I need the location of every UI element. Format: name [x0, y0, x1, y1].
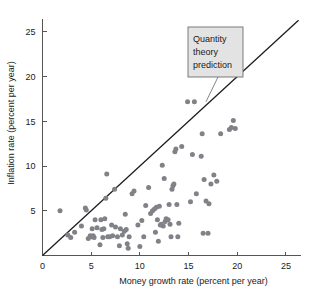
data-point — [160, 163, 165, 168]
data-point — [132, 189, 137, 194]
data-point — [194, 191, 199, 196]
data-point — [139, 218, 144, 223]
data-point — [200, 131, 205, 136]
data-point — [115, 234, 120, 239]
data-point — [100, 235, 105, 240]
data-point — [113, 224, 118, 229]
data-point — [135, 223, 140, 228]
data-point — [124, 227, 129, 232]
data-point — [214, 179, 219, 184]
data-point — [167, 202, 172, 207]
data-point — [231, 118, 236, 123]
data-point — [102, 216, 107, 221]
data-point — [185, 99, 190, 104]
data-point — [58, 208, 63, 213]
data-points — [58, 99, 238, 251]
data-point — [188, 199, 193, 204]
data-point — [166, 217, 171, 222]
data-point — [161, 223, 166, 228]
x-tick-label-25: 25 — [281, 261, 291, 271]
data-point — [84, 207, 89, 212]
x-tick-label-15: 15 — [184, 261, 194, 271]
data-point — [143, 203, 148, 208]
y-tick-label-10: 10 — [25, 161, 35, 171]
quantity-theory-annotation: Quantitytheoryprediction — [188, 27, 243, 102]
data-point — [206, 231, 211, 236]
axis-titles: Money growth rate (percent per year)Infl… — [6, 61, 268, 285]
data-point — [206, 201, 211, 206]
data-point — [97, 242, 102, 247]
data-point — [179, 144, 184, 149]
data-point — [90, 226, 95, 231]
data-point — [110, 233, 115, 238]
data-point — [79, 223, 84, 228]
data-point — [92, 235, 97, 240]
data-point — [155, 217, 160, 222]
data-point — [156, 239, 161, 244]
annotation-line-3: prediction — [193, 60, 232, 70]
y-axis-title: Inflation rate (percent per year) — [6, 61, 16, 185]
data-point — [162, 176, 167, 181]
data-point — [176, 221, 181, 226]
data-point — [146, 185, 151, 190]
data-point — [171, 181, 176, 186]
data-point — [175, 234, 180, 239]
data-point — [202, 177, 207, 182]
y-tick-label-5: 5 — [30, 206, 35, 216]
data-point — [211, 173, 216, 178]
x-tick-label-0: 0 — [40, 261, 45, 271]
data-point — [201, 231, 206, 236]
data-point — [174, 202, 179, 207]
x-tick-label-10: 10 — [135, 261, 145, 271]
data-point — [141, 234, 146, 239]
y-tick-label-25: 25 — [25, 27, 35, 37]
data-point — [125, 241, 130, 246]
data-point — [153, 230, 158, 235]
data-point — [157, 204, 162, 209]
data-point — [93, 217, 98, 222]
x-tick-label-5: 5 — [89, 261, 94, 271]
annotation-line-1: Quantity — [193, 34, 227, 44]
data-point — [123, 212, 128, 217]
data-point — [103, 196, 108, 201]
data-point — [199, 154, 204, 159]
data-point — [137, 244, 142, 249]
data-point — [95, 225, 100, 230]
y-tick-label-15: 15 — [25, 117, 35, 127]
data-point — [192, 99, 197, 104]
data-point — [208, 181, 213, 186]
chart-figure: 0510152025510152025 Quantitytheorypredic… — [0, 0, 318, 290]
x-axis-title: Money growth rate (percent per year) — [119, 276, 268, 286]
annotation-line-2: theory — [193, 47, 219, 57]
data-point — [190, 152, 195, 157]
data-point — [173, 147, 178, 152]
data-point — [68, 235, 73, 240]
data-point — [104, 172, 109, 177]
x-tick-label-20: 20 — [232, 261, 242, 271]
data-point — [72, 230, 77, 235]
data-point — [168, 222, 173, 227]
scatter-plot: 0510152025510152025 Quantitytheorypredic… — [0, 0, 318, 290]
data-point — [126, 246, 131, 251]
data-point — [169, 234, 174, 239]
data-point — [112, 187, 117, 192]
data-point — [127, 234, 132, 239]
annotation-leader-line — [206, 77, 218, 102]
data-point — [117, 243, 122, 248]
data-point — [101, 226, 106, 231]
data-point — [218, 131, 223, 136]
y-tick-label-20: 20 — [25, 72, 35, 82]
data-point — [233, 126, 238, 131]
